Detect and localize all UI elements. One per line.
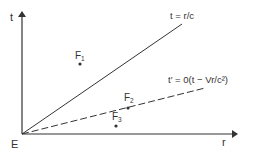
event-f3-label: F3 xyxy=(112,111,122,123)
light-line-label: t = r/c xyxy=(170,10,194,21)
event-f1: F1 xyxy=(75,50,85,66)
t-axis-label: t xyxy=(10,11,13,23)
event-f2-label: F2 xyxy=(124,92,134,104)
event-f1-dot xyxy=(78,62,81,65)
event-f2-dot xyxy=(126,106,129,109)
light-line xyxy=(22,24,182,134)
r-axis-label: r xyxy=(222,136,226,148)
event-f3: F3 xyxy=(112,111,122,128)
origin-label: E xyxy=(11,138,18,150)
event-f1-label: F1 xyxy=(75,50,85,62)
event-f3-dot xyxy=(114,124,117,127)
spacetime-diagram: t r E t = r/c t′ = 0(t − Vr/c²) F1 F2 F3 xyxy=(0,0,253,153)
event-f2: F2 xyxy=(124,92,134,110)
simultaneity-line-label: t′ = 0(t − Vr/c²) xyxy=(168,74,228,85)
